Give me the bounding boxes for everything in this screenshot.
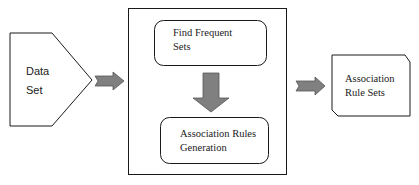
- find-frequent-sets-label: Find Frequent Sets: [173, 26, 232, 54]
- association-rule-sets-label: Association Rule Sets: [345, 72, 395, 100]
- data-set-label-line2: Set: [26, 83, 49, 98]
- flowchart-diagram: Data Set Find Frequent Sets Association …: [0, 0, 419, 185]
- association-rules-generation-label: Association Rules Generation: [180, 127, 256, 155]
- find-frequent-sets-line2: Sets: [173, 40, 232, 54]
- arrow-right-icon: [95, 72, 124, 90]
- association-rule-sets-line1: Association: [345, 72, 395, 86]
- data-set-label-line1: Data: [26, 64, 49, 79]
- association-rules-generation-line2: Generation: [180, 141, 256, 155]
- association-rule-sets-line2: Rule Sets: [345, 86, 395, 100]
- find-frequent-sets-line1: Find Frequent: [173, 26, 232, 40]
- data-set-shape: [10, 33, 92, 126]
- association-rules-generation-line1: Association Rules: [180, 127, 256, 141]
- data-set-label: Data Set: [26, 64, 49, 98]
- arrow-right-icon: [296, 77, 325, 95]
